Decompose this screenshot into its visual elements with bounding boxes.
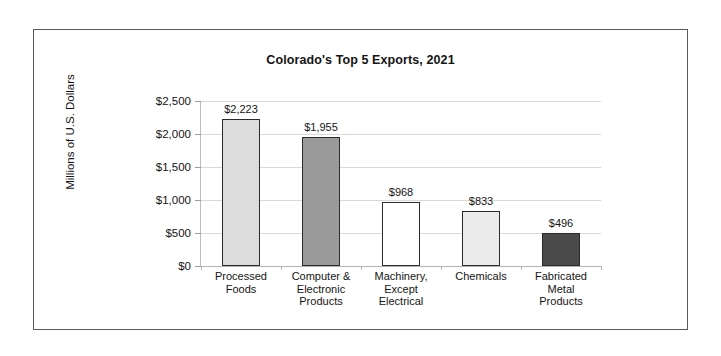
- x-category-label: Processed Foods: [195, 270, 287, 295]
- bar[interactable]: [542, 233, 580, 266]
- bar-value-label: $2,223: [224, 103, 258, 115]
- plot-area: $2,500$2,000$1,500$1,000$500$0 $2,223$1,…: [201, 101, 601, 266]
- y-tick-label: $1,500: [156, 161, 191, 173]
- y-tick-mark: [195, 101, 201, 102]
- bar[interactable]: [302, 137, 340, 266]
- bar-value-label: $833: [469, 195, 493, 207]
- gridline: [201, 101, 601, 102]
- x-category-label: Chemicals: [435, 270, 527, 283]
- bar[interactable]: [382, 202, 420, 266]
- y-tick-mark: [195, 200, 201, 201]
- bar[interactable]: [222, 119, 260, 266]
- y-tick-label: $0: [178, 260, 191, 272]
- chart-title: Colorado's Top 5 Exports, 2021: [34, 53, 687, 67]
- gridline: [201, 266, 601, 267]
- y-tick-label: $500: [165, 227, 191, 239]
- gridline: [201, 167, 601, 168]
- y-tick-label: $1,000: [156, 194, 191, 206]
- bar-value-label: $496: [549, 217, 573, 229]
- x-category-label: Machinery, Except Electrical: [355, 270, 447, 308]
- y-axis-title: Millions of U.S. Dollars: [64, 52, 76, 212]
- y-axis-line: [200, 101, 201, 267]
- bar[interactable]: [462, 211, 500, 266]
- x-category-label: Computer & Electronic Products: [275, 270, 367, 308]
- gridline: [201, 134, 601, 135]
- x-category-label: Fabricated Metal Products: [515, 270, 607, 308]
- y-tick-label: $2,500: [156, 95, 191, 107]
- gridline: [201, 200, 601, 201]
- y-tick-mark: [195, 167, 201, 168]
- y-tick-mark: [195, 233, 201, 234]
- bar-value-label: $968: [389, 186, 413, 198]
- y-tick-label: $2,000: [156, 128, 191, 140]
- bar-value-label: $1,955: [304, 121, 338, 133]
- chart-frame: Colorado's Top 5 Exports, 2021 Millions …: [33, 29, 688, 330]
- x-tick-mark: [601, 266, 602, 270]
- y-tick-mark: [195, 134, 201, 135]
